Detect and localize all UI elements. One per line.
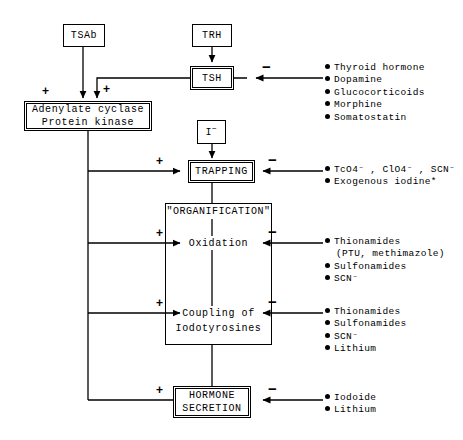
sign-plus-secretion: +	[156, 385, 163, 395]
list-item: TcO4⁻ , ClO4⁻ , SCN⁻	[325, 164, 455, 176]
sign-plus-oxidation: +	[156, 228, 163, 238]
sign-minus-oxidation: −	[268, 227, 277, 237]
list-item: SCN⁻	[325, 273, 445, 285]
node-hormone-secretion[interactable]: HORMONE SECRETION	[173, 386, 251, 418]
bullet-icon	[325, 320, 330, 325]
bullet-icon	[325, 114, 330, 119]
sign-minus-tsh: −	[262, 62, 271, 72]
node-trh-label: TRH	[202, 29, 222, 42]
bullet-icon	[325, 178, 330, 183]
secretion-line-1: HORMONE	[189, 389, 235, 402]
list-item: Exogenous iodine*	[325, 176, 455, 188]
node-iodide-label: I−	[205, 126, 217, 139]
bullet-icon	[325, 101, 330, 106]
list-item: Thyroid hormone	[325, 62, 425, 74]
node-iodide-charge: −	[212, 123, 217, 132]
list-coupling-inhibitors: Thionamides Sulfonamides SCN⁻ Lithium	[325, 306, 407, 356]
bullet-icon	[325, 263, 330, 268]
sign-plus-trapping: +	[156, 156, 163, 166]
node-adenylate-cyclase[interactable]: Adenylate cyclase Protein kinase	[24, 101, 152, 131]
adenylate-line-2: Protein kinase	[42, 116, 134, 129]
sign-minus-secretion: −	[268, 384, 277, 394]
bullet-icon	[325, 308, 330, 313]
bullet-icon	[325, 345, 330, 350]
secretion-line-2: SECRETION	[182, 402, 241, 415]
list-oxidation-inhibitors: Thionamides (PTU, methimazole) Sulfonami…	[325, 236, 445, 286]
node-tsab[interactable]: TSAb	[63, 24, 105, 47]
node-trapping[interactable]: TRAPPING	[188, 160, 255, 183]
bullet-icon	[325, 238, 330, 243]
bullet-icon	[325, 64, 330, 69]
list-item: Dopamine	[325, 74, 425, 86]
group-organification-title: "ORGANIFICATION"	[165, 206, 272, 217]
sign-plus-coupling: +	[156, 298, 163, 308]
coupling-line-2: Iodotyrosines	[176, 323, 262, 334]
list-secretion-inhibitors: Iodoide Lithium	[325, 392, 376, 417]
bullet-icon	[325, 406, 330, 411]
sign-minus-coupling: −	[268, 297, 277, 307]
bullet-icon	[325, 275, 330, 280]
bullet-icon	[325, 76, 330, 81]
node-iodide[interactable]: I−	[197, 120, 226, 144]
diagram-canvas: TSAb TRH TSH I− Adenylate cyclase Protei…	[0, 0, 463, 440]
list-tsh-inhibitors: Thyroid hormone Dopamine Glucocorticoids…	[325, 62, 425, 124]
bullet-icon	[325, 394, 330, 399]
list-item: Thionamides	[325, 306, 407, 318]
bullet-icon	[325, 89, 330, 94]
node-trh[interactable]: TRH	[192, 24, 232, 47]
node-trapping-label: TRAPPING	[195, 165, 248, 178]
node-oxidation[interactable]: Oxidation	[165, 236, 272, 251]
node-tsh[interactable]: TSH	[190, 66, 234, 90]
sign-minus-trapping: −	[268, 155, 277, 165]
list-item: Lithium	[325, 343, 407, 355]
sign-plus-tsab: +	[42, 86, 49, 96]
adenylate-line-1: Adenylate cyclase	[32, 103, 144, 116]
list-item: Sulfonamides	[325, 318, 407, 330]
node-tsab-label: TSAb	[71, 29, 97, 42]
list-trapping-inhibitors: TcO4⁻ , ClO4⁻ , SCN⁻ Exogenous iodine*	[325, 164, 455, 189]
list-item: Morphine	[325, 99, 425, 111]
sign-plus-tsh-adenylate: +	[103, 84, 110, 94]
list-item-sub: (PTU, methimazole)	[325, 248, 445, 260]
list-item: Lithium	[325, 404, 376, 416]
list-item: Sulfonamides	[325, 261, 445, 273]
bullet-icon	[325, 333, 330, 338]
coupling-line-1: Coupling of	[182, 308, 255, 319]
bullet-icon	[325, 166, 330, 171]
node-coupling[interactable]: Coupling of Iodotyrosines	[160, 306, 277, 336]
node-tsh-label: TSH	[202, 72, 222, 85]
node-oxidation-label: Oxidation	[189, 238, 248, 249]
list-item: SCN⁻	[325, 331, 407, 343]
list-item: Thionamides	[325, 236, 445, 248]
list-item: Somatostatin	[325, 112, 425, 124]
list-item: Glucocorticoids	[325, 87, 425, 99]
list-item: Iodoide	[325, 392, 376, 404]
